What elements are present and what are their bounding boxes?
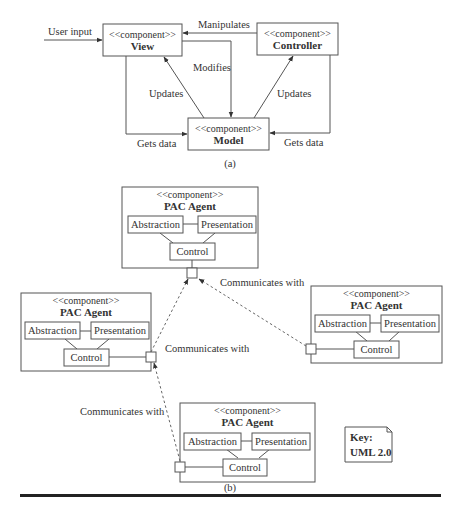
figure-a: <<component>> View <<component>> Control… [44,19,338,170]
abstraction-part: Abstraction [28,325,78,336]
model-name: Model [214,134,244,146]
agent-stereotype: <<component>> [214,405,281,416]
modifies-label: Modifies [193,62,231,73]
presentation-part: Presentation [201,219,254,230]
control-part: Control [70,352,102,363]
abstraction-part: Abstraction [131,219,181,230]
key-title: Key: [350,431,373,443]
presentation-part: Presentation [384,318,437,329]
caption-rule [20,494,441,497]
gets-data-left-label: Gets data [137,138,177,149]
abstraction-part: Abstraction [318,318,368,329]
updates-right-label: Updates [277,88,311,99]
updates-left-label: Updates [149,88,183,99]
communicates-bottom-left-label: Communicates with [80,406,165,417]
pac-agent-right: <<component>> PAC Agent Abstraction Pres… [306,286,442,363]
controller-name: Controller [273,39,322,51]
figure-b-label: (b) [224,482,237,494]
manipulates-label: Manipulates [198,19,250,30]
modifies-arrow [182,41,231,117]
port-left [146,352,156,362]
view-stereotype: <<component>> [109,29,176,40]
presentation-part: Presentation [94,325,147,336]
agent-stereotype: <<component>> [53,295,120,306]
model-stereotype: <<component>> [195,123,262,134]
pac-agent-left: <<component>> PAC Agent Abstraction Pres… [21,293,156,371]
pac-agent-bottom: <<component>> PAC Agent Abstraction Pres… [175,403,315,482]
architecture-diagram: <<component>> View <<component>> Control… [0,0,460,507]
control-part: Control [229,462,261,473]
port-top [187,268,197,278]
updates-controller-arrow [254,56,293,118]
agent-name: PAC Agent [221,416,273,428]
figure-a-label: (a) [224,158,236,170]
control-part: Control [176,246,208,257]
model-component: <<component>> Model [188,118,269,150]
pac-agent-top: <<component>> PAC Agent Abstraction Pres… [122,187,258,278]
agent-name: PAC Agent [164,200,216,212]
control-part: Control [360,344,392,355]
agent-name: PAC Agent [60,306,112,318]
key-note: Key: UML 2.0 [345,427,392,462]
link-right-to-top [199,279,306,346]
gets-data-right-label: Gets data [284,137,324,148]
view-component: <<component>> View [103,24,182,56]
controller-stereotype: <<component>> [264,28,331,39]
agent-name: PAC Agent [350,299,402,311]
presentation-part: Presentation [255,436,308,447]
controller-component: <<component>> Controller [257,23,338,55]
communicates-middle-label: Communicates with [165,343,250,354]
abstraction-part: Abstraction [188,436,238,447]
key-value: UML 2.0 [350,446,392,458]
agent-stereotype: <<component>> [343,288,410,299]
view-name: View [131,40,154,52]
communicates-top-right-label: Communicates with [220,277,305,288]
agent-stereotype: <<component>> [157,189,224,200]
port-bottom [175,462,185,472]
port-right [306,344,316,354]
link-left-to-top [151,279,188,352]
user-input-label: User input [48,26,92,37]
